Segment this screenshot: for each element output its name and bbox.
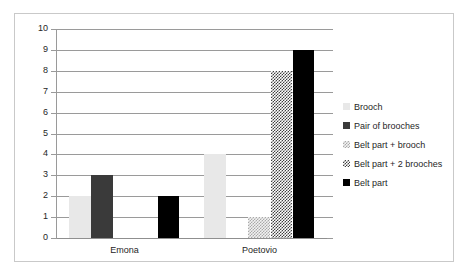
legend-item: Brooch [343,97,451,116]
y-axis-tick-right [327,196,333,197]
y-axis-tick-right [327,175,333,176]
legend-swatch-icon [343,179,350,186]
bar [271,71,293,238]
gridline [57,238,327,239]
legend-swatch-icon [343,122,350,129]
y-axis-tick-right [327,134,333,135]
y-axis-tick-right [327,113,333,114]
bar [91,175,113,238]
x-axis-category-label: Poetovio [192,245,327,255]
chart-frame: 012345678910 EmonaPoetovio BroochPair of… [14,13,454,262]
y-axis-tick-label: 4 [15,149,48,158]
y-axis-tick-label: 5 [15,129,48,138]
legend-item-label: Belt part [354,178,388,188]
chart-legend: BroochPair of broochesBelt part + brooch… [343,97,451,192]
y-axis-tick-label: 7 [15,87,48,96]
y-axis-tick-label: 0 [15,233,48,242]
legend-item: Belt part + 2 brooches [343,154,451,173]
plot-area [57,29,327,238]
bar [69,196,91,238]
legend-swatch-icon [343,103,350,110]
legend-item-label: Pair of brooches [354,121,420,131]
bar [158,196,180,238]
y-axis-tick-right [327,71,333,72]
legend-item-label: Brooch [354,102,383,112]
y-axis-tick-label: 3 [15,170,48,179]
legend-item-label: Belt part + brooch [354,140,425,150]
legend-item: Belt part [343,173,451,192]
y-axis-tick-right [327,154,333,155]
y-axis-tick-right [327,238,333,239]
legend-item: Pair of brooches [343,116,451,135]
y-axis-tick-label: 8 [15,66,48,75]
legend-item: Belt part + brooch [343,135,451,154]
y-axis-tick-label: 10 [15,24,48,33]
bar [204,154,226,238]
y-axis-tick-label: 2 [15,191,48,200]
y-axis-tick-label: 9 [15,45,48,54]
bar [293,50,315,238]
legend-swatch-icon [343,160,350,167]
y-axis-tick-right [327,92,333,93]
legend-swatch-icon [343,141,350,148]
y-axis-tick-right [327,217,333,218]
x-axis-category-label: Emona [57,245,192,255]
y-axis-tick-right [327,29,333,30]
legend-item-label: Belt part + 2 brooches [354,159,442,169]
y-axis-tick-label: 1 [15,212,48,221]
y-axis-tick-label: 6 [15,108,48,117]
bar [248,217,270,238]
y-axis-tick-right [327,50,333,51]
